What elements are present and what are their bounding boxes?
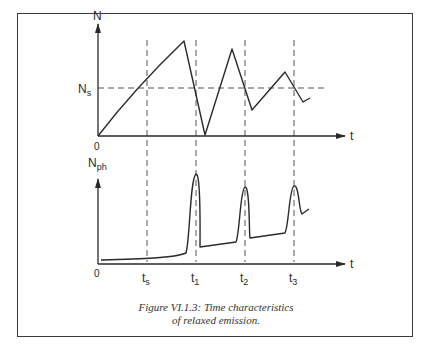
- upper-zero-label: 0: [94, 141, 100, 152]
- ns-label: Ns: [78, 82, 92, 98]
- t3-label: t3: [289, 271, 297, 287]
- upper-y-label: N: [93, 9, 102, 23]
- upper-axes: [98, 24, 345, 136]
- ts-label: ts: [142, 271, 150, 287]
- time-marker-lines: [147, 40, 294, 262]
- upper-t-label: t: [350, 129, 354, 143]
- figure-caption-line2: of relaxed emission.: [0, 314, 432, 327]
- lower-zero-label: 0: [94, 268, 100, 279]
- lower-y-label: Nph: [88, 156, 107, 172]
- photon-curve: [101, 174, 309, 260]
- figure-caption-line1: Figure VI.1.3: Time characteristics: [0, 301, 432, 314]
- t1-label: t1: [191, 271, 199, 287]
- t2-label: t2: [240, 271, 248, 287]
- lower-axes: [98, 179, 345, 264]
- figure: N Ns 0 t Nph 0 t ts t1 t2 t3 Figure VI.1…: [0, 0, 432, 357]
- lower-t-label: t: [350, 257, 354, 271]
